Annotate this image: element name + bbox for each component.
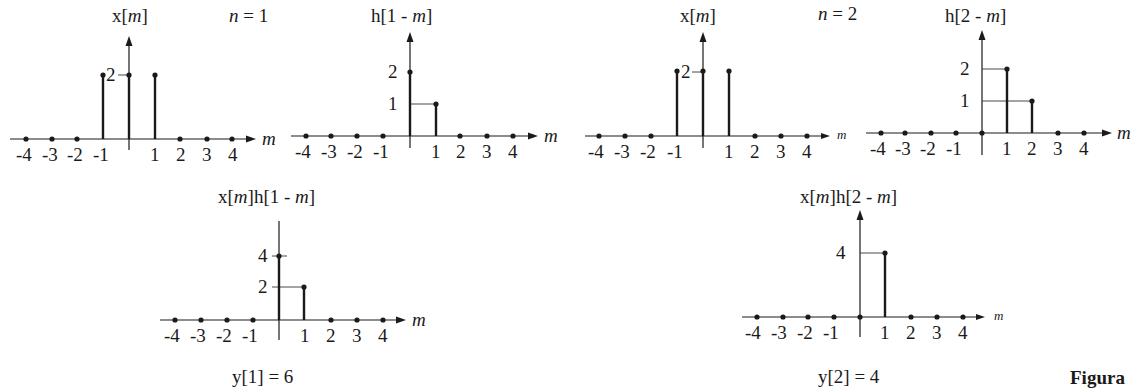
svg-text:2: 2: [456, 141, 466, 162]
svg-text:-3: -3: [771, 322, 787, 343]
svg-text:-3: -3: [190, 325, 206, 346]
svg-text:3: 3: [776, 141, 786, 162]
x-tick-labels: -4 -3 -2 -1 1 2 3 4: [745, 322, 968, 343]
y-tick-label: 1: [960, 90, 970, 111]
svg-text:2: 2: [326, 325, 336, 346]
x-axis-label: m: [837, 127, 846, 142]
arrow-up-icon: [979, 30, 986, 40]
arrow-right-icon: [396, 317, 406, 324]
y-tick-label: 2: [258, 276, 268, 297]
svg-text:-2: -2: [640, 141, 656, 162]
svg-text:-4: -4: [16, 144, 32, 165]
x-axis-label: m: [1117, 122, 1131, 143]
x-axis-label: m: [412, 309, 426, 330]
svg-text:2: 2: [906, 322, 916, 343]
svg-text:-2: -2: [347, 141, 363, 162]
svg-text:3: 3: [1053, 138, 1063, 159]
svg-text:3: 3: [202, 144, 212, 165]
panel-title: h[2 - m]: [945, 5, 1006, 26]
svg-text:-4: -4: [870, 138, 886, 159]
svg-text:1: 1: [431, 141, 441, 162]
x-axis-label: m: [262, 128, 276, 149]
svg-text:-2: -2: [216, 325, 232, 346]
panel-product-n2: x[m]h[2 - m] m 4 -4 -3 -2 -1 1 2 3 4 y[2…: [742, 186, 1003, 387]
svg-text:1: 1: [1002, 138, 1012, 159]
x-tick-labels: -4 -3 -2 -1 1 2 3 4: [164, 325, 388, 346]
svg-text:-1: -1: [373, 141, 389, 162]
panel-h-2-minus-m: h[2 - m] m 2 1 -4 -3 -2 -1 1 2 3 4: [866, 5, 1131, 159]
svg-text:-1: -1: [667, 141, 683, 162]
svg-text:4: 4: [228, 144, 238, 165]
convolution-figure: x[m] n = 1 m 2 -4 -3 -2 -1 1 2 3 4 h[1 -…: [0, 0, 1133, 388]
y-tick-label: 2: [106, 64, 116, 85]
result-y1: y[1] = 6: [232, 366, 293, 387]
arrow-right-icon: [246, 136, 256, 143]
n-annotation: n = 1: [229, 5, 268, 26]
panel-x-n1: x[m] n = 1 m 2 -4 -3 -2 -1 1 2 3 4: [10, 5, 276, 165]
svg-text:1: 1: [150, 144, 160, 165]
svg-text:-4: -4: [745, 322, 761, 343]
y-tick-label: 2: [388, 61, 398, 82]
svg-text:-2: -2: [797, 322, 813, 343]
x-tick-labels: -4 -3 -2 -1 1 2 3 4: [16, 144, 238, 165]
panel-title: x[m]: [112, 5, 148, 26]
svg-text:4: 4: [508, 141, 518, 162]
svg-text:2: 2: [1027, 138, 1037, 159]
y-tick-label: 2: [681, 61, 691, 82]
svg-text:3: 3: [352, 325, 362, 346]
panel-x-n2: x[m] n = 2 m 2 -4 -3 -2 -1 1 2 3 4: [585, 3, 857, 162]
svg-text:4: 4: [802, 141, 812, 162]
arrow-up-icon: [700, 32, 707, 42]
x-axis-label: m: [994, 308, 1003, 323]
svg-text:-1: -1: [93, 144, 109, 165]
panel-title: x[m]h[1 - m]: [218, 186, 315, 207]
svg-text:-2: -2: [920, 138, 936, 159]
svg-text:-1: -1: [242, 325, 258, 346]
x-tick-labels: -4 -3 -2 -1 1 2 3 4: [588, 141, 812, 162]
svg-text:2: 2: [176, 144, 186, 165]
n-annotation: n = 2: [818, 3, 857, 24]
svg-text:4: 4: [958, 322, 968, 343]
arrow-up-icon: [857, 210, 864, 220]
svg-text:-3: -3: [614, 141, 630, 162]
panel-title: x[m]h[2 - m]: [800, 186, 897, 207]
arrow-right-icon: [821, 133, 830, 139]
x-tick-labels: -4 -3 -2 -1 1 2 3 4: [295, 141, 518, 162]
panel-title: x[m]: [680, 5, 716, 26]
svg-text:-3: -3: [321, 141, 337, 162]
y-tick-label: 4: [258, 245, 268, 266]
panel-title: h[1 - m]: [371, 5, 432, 26]
arrow-right-icon: [528, 133, 538, 140]
svg-text:4: 4: [378, 325, 388, 346]
svg-text:-4: -4: [295, 141, 311, 162]
svg-text:1: 1: [300, 325, 310, 346]
svg-text:4: 4: [1079, 138, 1089, 159]
y-tick-label: 1: [388, 93, 398, 114]
arrow-up-icon: [126, 36, 133, 46]
x-tick-labels: -4 -3 -2 -1 1 2 3 4: [870, 138, 1089, 159]
svg-text:2: 2: [750, 141, 760, 162]
result-y2: y[2] = 4: [818, 366, 880, 387]
arrow-up-icon: [407, 32, 414, 42]
svg-text:3: 3: [932, 322, 942, 343]
svg-text:-1: -1: [946, 138, 962, 159]
svg-text:-3: -3: [42, 144, 58, 165]
svg-text:-3: -3: [895, 138, 911, 159]
y-tick-label: 4: [836, 242, 846, 263]
figure-caption: Figura: [1070, 367, 1125, 388]
arrow-right-icon: [1102, 130, 1112, 137]
arrow-right-icon: [976, 314, 985, 320]
x-axis-label: m: [544, 125, 558, 146]
svg-text:1: 1: [724, 141, 734, 162]
svg-text:-4: -4: [164, 325, 180, 346]
svg-text:-4: -4: [588, 141, 604, 162]
svg-text:-2: -2: [67, 144, 83, 165]
panel-product-n1: x[m]h[1 - m] m 4 2 -4 -3 -2 -1 1 2 3 4 y…: [160, 186, 426, 387]
y-tick-label: 2: [960, 58, 970, 79]
panel-h-1-minus-m: h[1 - m] m 2 1 -4 -3 -2 -1 1 2 3 4: [291, 5, 558, 162]
svg-text:-1: -1: [823, 322, 839, 343]
svg-text:3: 3: [482, 141, 492, 162]
svg-text:1: 1: [880, 322, 890, 343]
